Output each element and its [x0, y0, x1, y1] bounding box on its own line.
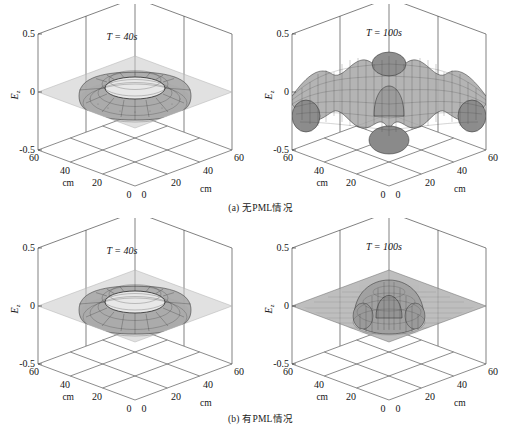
plot-panel-a-left: T = 40s 0.5 0 -0.5 Ez 60 40 20 0 cm [8, 4, 263, 200]
y-tick-60: 60 [29, 366, 39, 377]
z-axis-label-b-left: Ez [9, 304, 22, 314]
x-axis-unit-b-left: cm [200, 398, 212, 408]
surface-mesh-b-left [79, 285, 191, 337]
surface-plot-a-left: T = 40s 0.5 0 -0.5 Ez 60 40 20 0 cm [8, 4, 263, 200]
z-tick-0: 0.5 [277, 28, 290, 39]
z-axis-label-a-right: Ez [263, 90, 276, 100]
x-tick-60: 60 [234, 366, 244, 377]
z-axis-label-a-left: Ez [9, 90, 22, 100]
subfigure-caption-b: (b) 有PML情况 [0, 411, 521, 425]
z-axis-label-b-right: Ez [263, 304, 276, 314]
y-tick-20: 20 [92, 177, 102, 188]
figure-row-b: T = 40s 0.5 0 -0.5 Ez 60 40 20 0 cm 0 [0, 218, 521, 414]
y-axis-unit-a-left: cm [62, 178, 74, 188]
plot-panel-a-right: T = 100s 0.5 0 -0.5 Ez 60 40 20 0 cm 0 [262, 4, 517, 200]
x-tick-40: 40 [457, 165, 467, 176]
x-tick-20: 20 [425, 391, 435, 402]
y-axis-a-left: 60 40 20 0 cm [29, 152, 132, 200]
x-axis-unit-a-left: cm [200, 184, 212, 194]
z-axis-a-right: 0.5 0 -0.5 Ez [263, 28, 296, 155]
y-axis-b-right: 60 40 20 0 cm [283, 366, 386, 414]
y-tick-40: 40 [60, 379, 70, 390]
x-tick-40: 40 [203, 165, 213, 176]
surface-plot-b-left: T = 40s 0.5 0 -0.5 Ez 60 40 20 0 cm 0 [8, 218, 263, 414]
x-tick-20: 20 [425, 177, 435, 188]
y-tick-40: 40 [60, 165, 70, 176]
surface-mesh-a-left [79, 71, 191, 123]
y-axis-b-left: 60 40 20 0 cm [29, 366, 132, 414]
x-axis-unit-a-right: cm [454, 184, 466, 194]
figure-row-a: T = 40s 0.5 0 -0.5 Ez 60 40 20 0 cm [0, 4, 521, 200]
y-tick-40: 40 [314, 165, 324, 176]
subfigure-caption-a: (a) 无PML情况 [0, 200, 521, 214]
surface-plot-a-right: T = 100s 0.5 0 -0.5 Ez 60 40 20 0 cm 0 [262, 4, 517, 200]
x-tick-40: 40 [457, 379, 467, 390]
z-axis-a-left: 0.5 0 -0.5 Ez [9, 28, 42, 155]
y-tick-20: 20 [346, 391, 356, 402]
plot-panel-b-right: T = 100s 0.5 0 -0.5 Ez 60 40 20 0 cm 0 [262, 218, 517, 414]
x-tick-60: 60 [488, 152, 498, 163]
x-tick-60: 60 [488, 366, 498, 377]
x-tick-60: 60 [234, 152, 244, 163]
figure-root: T = 40s 0.5 0 -0.5 Ez 60 40 20 0 cm [0, 0, 521, 432]
surface-plot-b-right: T = 100s 0.5 0 -0.5 Ez 60 40 20 0 cm 0 [262, 218, 517, 414]
x-tick-20: 20 [171, 177, 181, 188]
plot-title-b-left: T = 40s [106, 245, 137, 256]
z-axis-b-right: 0.5 0 -0.5 Ez [263, 242, 296, 369]
y-tick-20: 20 [92, 391, 102, 402]
y-tick-0: 0 [381, 189, 386, 200]
y-tick-20: 20 [346, 177, 356, 188]
plot-title-b-right: T = 100s [366, 241, 402, 252]
z-tick-1: 0 [30, 300, 35, 311]
y-tick-0: 0 [127, 189, 132, 200]
y-tick-60: 60 [283, 366, 293, 377]
y-axis-unit-b-right: cm [316, 392, 328, 402]
x-tick-0: 0 [142, 189, 147, 200]
y-tick-60: 60 [283, 152, 293, 163]
z-tick-0: 0.5 [277, 242, 290, 253]
y-tick-40: 40 [314, 379, 324, 390]
y-axis-unit-b-left: cm [62, 392, 74, 402]
plot-title-a-right: T = 100s [366, 27, 402, 38]
z-tick-1: 0 [284, 300, 289, 311]
z-tick-0: 0.5 [23, 242, 36, 253]
y-axis-a-right: 60 40 20 0 cm [283, 152, 386, 200]
z-tick-1: 0 [284, 86, 289, 97]
plot-panel-b-left: T = 40s 0.5 0 -0.5 Ez 60 40 20 0 cm 0 [8, 218, 263, 414]
z-axis-b-left: 0.5 0 -0.5 Ez [9, 242, 42, 369]
x-tick-40: 40 [203, 379, 213, 390]
z-tick-1: 0 [30, 86, 35, 97]
x-tick-0: 0 [396, 189, 401, 200]
x-tick-20: 20 [171, 391, 181, 402]
y-axis-unit-a-right: cm [316, 178, 328, 188]
z-tick-0: 0.5 [23, 28, 36, 39]
plot-title-a-left: T = 40s [106, 31, 137, 42]
y-tick-60: 60 [29, 152, 39, 163]
x-axis-unit-b-right: cm [454, 398, 466, 408]
